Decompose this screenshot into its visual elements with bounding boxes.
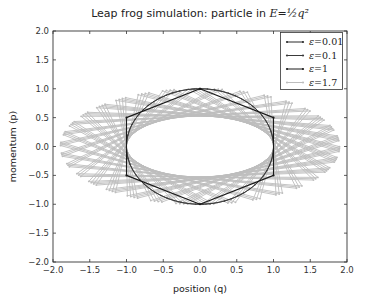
series-marker xyxy=(129,129,130,130)
series-marker xyxy=(135,174,136,175)
series-marker xyxy=(270,96,272,98)
x-tick-label: 0.5 xyxy=(230,265,244,275)
series-marker xyxy=(72,122,74,124)
series-marker xyxy=(307,109,309,111)
series-marker xyxy=(263,94,265,96)
series-marker xyxy=(165,95,166,96)
series-marker xyxy=(329,167,331,169)
series-marker xyxy=(224,200,225,201)
series-marker xyxy=(148,92,150,94)
series-marker xyxy=(227,202,229,204)
series-marker xyxy=(84,113,86,115)
x-tick-label: −1.5 xyxy=(79,265,100,275)
y-tick-label: −2.0 xyxy=(28,257,49,267)
series-marker xyxy=(261,115,262,116)
series-marker xyxy=(125,174,127,176)
series-marker xyxy=(126,195,128,197)
x-tick-label: −1.0 xyxy=(116,265,137,275)
x-tick-label: 1.5 xyxy=(303,265,317,275)
series-marker xyxy=(259,198,261,200)
series-marker xyxy=(235,201,237,203)
legend-marker-icon xyxy=(286,41,288,43)
series-marker xyxy=(82,114,84,116)
series-marker xyxy=(173,200,174,201)
series-marker xyxy=(63,132,65,134)
x-axis-label: position (q) xyxy=(173,283,227,294)
series-marker xyxy=(188,203,189,204)
series-marker xyxy=(134,119,135,120)
series-marker xyxy=(95,184,97,186)
series-marker xyxy=(115,192,117,194)
legend-marker-icon xyxy=(302,54,304,56)
series-marker xyxy=(301,185,303,187)
series-marker xyxy=(337,137,339,139)
series-marker xyxy=(217,202,218,203)
series-marker xyxy=(241,98,242,99)
series-marker xyxy=(247,102,248,103)
series-marker xyxy=(133,197,135,199)
series-marker xyxy=(252,199,254,201)
series-marker xyxy=(252,106,253,107)
series-marker xyxy=(333,161,335,163)
series-marker xyxy=(186,89,187,90)
series-marker xyxy=(315,178,317,180)
series-marker xyxy=(278,193,280,195)
y-tick-label: −1.0 xyxy=(28,199,49,209)
series-marker xyxy=(254,184,255,185)
chart-title: Leap frog simulation: particle in E=½q² xyxy=(91,7,309,20)
series-marker xyxy=(304,108,306,110)
legend-label: ε=1 xyxy=(309,63,328,74)
series-marker xyxy=(246,91,248,93)
series-marker xyxy=(104,103,106,105)
series-marker xyxy=(62,134,64,136)
series-marker xyxy=(132,169,133,170)
series-marker xyxy=(268,125,269,126)
series-marker xyxy=(144,183,145,184)
series-marker xyxy=(60,152,62,154)
series-marker xyxy=(267,95,269,97)
x-tick-label: −0.5 xyxy=(153,265,174,275)
series-marker xyxy=(137,94,139,96)
series-marker xyxy=(138,114,139,115)
y-tick-label: −1.5 xyxy=(28,228,49,238)
series-marker xyxy=(235,95,236,96)
series-marker xyxy=(317,176,319,178)
series-marker xyxy=(270,130,271,131)
legend: ε=0.01ε=0.1ε=1ε=1.7 xyxy=(281,33,344,90)
series-marker xyxy=(330,126,332,128)
series-marker xyxy=(129,163,130,164)
series-marker xyxy=(161,201,163,203)
series-marker xyxy=(323,119,325,121)
series-marker xyxy=(207,88,208,89)
series-marker xyxy=(326,170,328,172)
series-marker xyxy=(137,197,139,199)
series-marker xyxy=(265,120,266,121)
series-marker xyxy=(73,121,75,123)
series-marker xyxy=(339,146,341,148)
series-marker xyxy=(272,174,274,176)
series-marker xyxy=(269,165,270,166)
series-marker xyxy=(90,182,92,184)
series-marker xyxy=(180,202,181,203)
series-marker xyxy=(228,93,229,94)
series-marker xyxy=(60,141,62,143)
series-marker xyxy=(243,192,244,193)
series-marker xyxy=(60,145,62,147)
y-tick-label: −0.5 xyxy=(28,170,49,180)
series-marker xyxy=(61,154,63,156)
series-marker xyxy=(118,99,120,101)
series-marker xyxy=(162,90,164,92)
legend-marker-icon xyxy=(286,81,288,83)
series-marker xyxy=(76,173,78,175)
series-marker xyxy=(231,198,232,199)
series-marker xyxy=(127,135,128,136)
series-marker xyxy=(272,117,274,119)
series-marker xyxy=(173,89,175,91)
series-marker xyxy=(172,92,173,93)
series-marker xyxy=(131,124,132,125)
series-marker xyxy=(147,105,148,106)
x-tick-label: 0.0 xyxy=(193,265,207,275)
series-marker xyxy=(60,143,62,145)
series-marker xyxy=(153,101,154,102)
series-marker xyxy=(69,125,71,127)
